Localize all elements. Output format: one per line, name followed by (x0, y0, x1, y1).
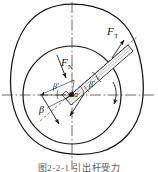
angle-beta-right-label: β′ (89, 81, 95, 89)
rotation-direction-arrow (113, 82, 116, 104)
force-tangential-label: FT (107, 26, 118, 40)
angle-alpha-label: α (74, 91, 78, 99)
angle-beta-lower-label: β (39, 105, 44, 115)
angle-beta-arrow (42, 92, 59, 124)
angle-beta-prime-label: β′ (53, 83, 59, 91)
figure-container: FT FN α β′ β′ β 图2-2-1 引出杆受力 (0, 0, 158, 172)
force-normal-label: FN (61, 57, 73, 71)
cam-outline (11, 4, 144, 154)
force-analysis-diagram (0, 0, 158, 172)
figure-caption: 图2-2-1 引出杆受力 (0, 161, 158, 172)
